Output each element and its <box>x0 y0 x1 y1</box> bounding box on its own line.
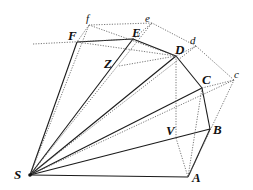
label-d: D <box>174 42 185 57</box>
label-e-small: e <box>145 12 150 24</box>
label-e: E <box>131 25 141 40</box>
polygon-outline <box>30 39 210 177</box>
label-s: S <box>14 167 21 182</box>
label-f-small: f <box>86 12 91 24</box>
label-a: A <box>191 170 201 185</box>
label-d-small: d <box>190 34 196 46</box>
label-v: V <box>166 123 176 138</box>
label-f: F <box>67 28 77 43</box>
vertex-s-marker <box>28 173 32 177</box>
label-z: Z <box>103 56 112 71</box>
construction-lines <box>30 23 234 177</box>
label-c: C <box>202 72 211 87</box>
label-c-small: c <box>234 68 239 80</box>
geometry-diagram: S A B C D E F c d e f V Z <box>0 0 253 190</box>
label-b: B <box>212 122 222 137</box>
